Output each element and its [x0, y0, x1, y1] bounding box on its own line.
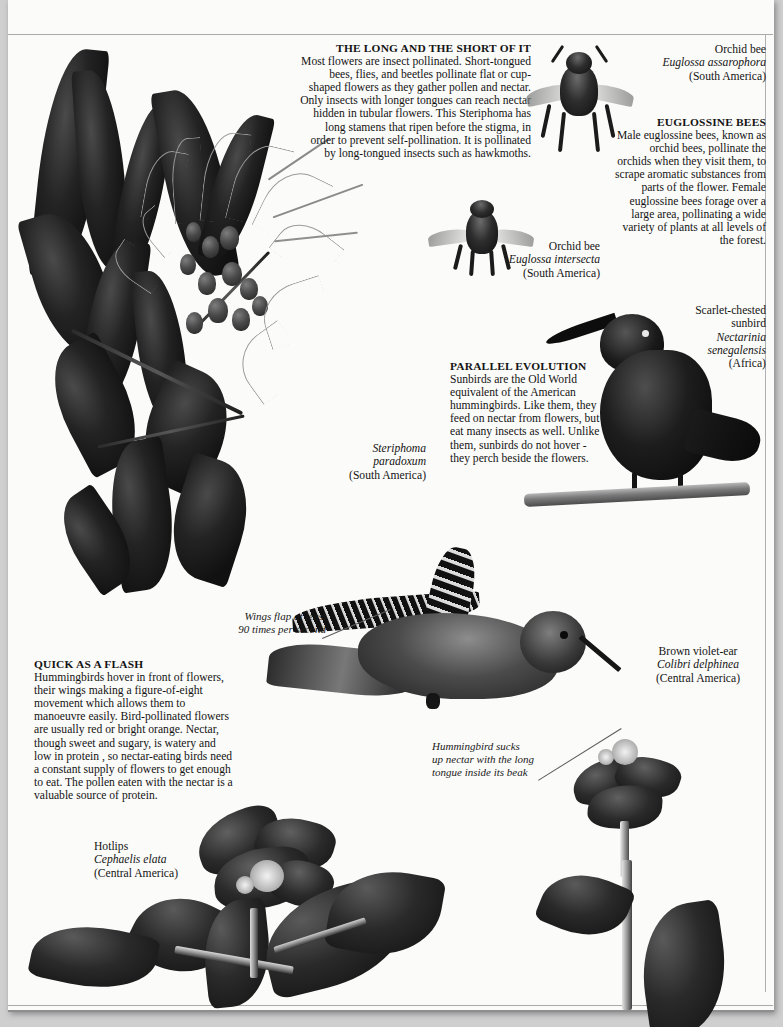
hotlips-stem-lower	[598, 860, 748, 1010]
caption-region: (South America)	[523, 267, 600, 280]
annotation-line-2: up nectar with the long	[432, 753, 534, 765]
annotation-line-3: tongue inside its beak	[432, 766, 528, 778]
article-body: Hummingbirds hover in front of flowers, …	[34, 671, 233, 802]
caption-species-genus: Steriphoma	[373, 442, 426, 455]
caption-region: (Central America)	[656, 672, 740, 685]
caption-common-name: Orchid bee	[549, 240, 600, 253]
caption-orchid-bee-intersecta: Orchid bee Euglossa intersecta (South Am…	[460, 240, 600, 280]
caption-brown-violet-ear: Brown violet-ear Colibri delphinea (Cent…	[628, 645, 768, 685]
caption-species-name: Colibri delphinea	[657, 658, 739, 671]
caption-common-name: Brown violet-ear	[659, 645, 738, 658]
caption-species-name: Euglossa intersecta	[509, 253, 600, 266]
sunbird-eye	[642, 330, 649, 337]
caption-region: (South America)	[689, 70, 766, 83]
hotlips-flower-upper	[554, 735, 704, 875]
article-euglossine-bees: EUGLOSSINE BEES Male euglossine bees, kn…	[614, 116, 766, 247]
article-heading: PARALLEL EVOLUTION	[450, 360, 586, 372]
article-long-and-short: THE LONG AND THE SHORT OF IT Most flower…	[299, 42, 531, 160]
caption-common-name: Orchid bee	[715, 43, 766, 56]
article-body: Most flowers are insect pollinated. Shor…	[300, 55, 531, 160]
article-heading: QUICK AS A FLASH	[34, 658, 143, 670]
article-quick-as-a-flash: QUICK AS A FLASH Hummingbirds hover in f…	[34, 658, 236, 802]
caption-species-name: Euglossa assarophora	[662, 56, 766, 69]
annotation-line-2: 90 times per second	[238, 623, 326, 635]
scanned-page-canvas: THE LONG AND THE SHORT OF IT Most flower…	[0, 0, 783, 1027]
page-sheet: THE LONG AND THE SHORT OF IT Most flower…	[8, 0, 774, 1012]
caption-orchid-bee-assarophora: Orchid bee Euglossa assarophora (South A…	[608, 43, 766, 83]
article-body: Sunbirds are the Old World equivalent of…	[450, 373, 599, 465]
top-rule	[8, 34, 773, 35]
caption-steriphoma: Steriphoma paradoxum (South America)	[308, 442, 426, 482]
article-parallel-evolution: PARALLEL EVOLUTION Sunbirds are the Old …	[450, 360, 602, 465]
hummingbird-beak	[578, 635, 621, 672]
sunbird-perch-branch	[524, 482, 750, 507]
hotlips-white-flower	[250, 860, 284, 892]
caption-region: (South America)	[349, 469, 426, 482]
annotation-line-1: Hummingbird sucks	[432, 740, 520, 752]
hummingbird-eye	[560, 631, 568, 639]
brown-violet-ear-hummingbird-photo	[298, 555, 648, 740]
hotlips-plant-specimen	[24, 800, 444, 1000]
annotation-wings-flap: Wings flap at least 90 times per second	[198, 610, 326, 636]
article-heading: THE LONG AND THE SHORT OF IT	[336, 42, 531, 54]
caption-species-epithet: paradoxum	[373, 455, 426, 468]
annotation-line-1: Wings flap at least	[244, 610, 326, 622]
hummingbird-feet	[426, 693, 440, 709]
article-body: Male euglossine bees, known as orchid be…	[615, 129, 766, 247]
article-heading: EUGLOSSINE BEES	[657, 116, 766, 128]
